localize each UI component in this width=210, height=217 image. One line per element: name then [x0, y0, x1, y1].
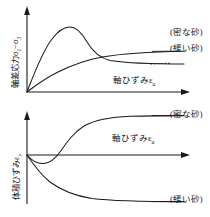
chart-volumetric-strain: 体積ひずみεv 軸ひずみεa (密な砂) (緩い砂) [0, 104, 210, 212]
axial-y-axis-label-mid: −σ [11, 40, 20, 49]
axial-x-axis-arrowhead [181, 89, 190, 95]
axial-y-axis-label: 軸差応力σ1−σ3 [12, 37, 22, 88]
axial-x-axis-sub: a [153, 81, 156, 87]
volumetric-x-axis-sub: a [152, 139, 155, 145]
chart-axial-stress-strain: 軸差応力σ1−σ3 軸ひずみεa (密な砂) (緩い砂) [0, 0, 210, 104]
volumetric-legend-dense-sand: (密な砂) [170, 110, 203, 119]
volumetric-y-axis-arrowhead [24, 111, 30, 120]
axial-y-axis-label-text: 軸差応力σ [11, 52, 20, 88]
axial-curve-dense-sand [27, 27, 184, 92]
volumetric-y-axis-label: 体積ひずみεv [13, 154, 23, 200]
axial-y-axis-sub-1: 1 [16, 49, 22, 52]
volumetric-x-axis-label-text: 軸ひずみε [112, 133, 152, 143]
axial-x-axis-label: 軸ひずみεa [113, 76, 155, 87]
volumetric-curve-loose-sand [27, 155, 184, 202]
axial-legend-dense-sand: (密な砂) [170, 28, 203, 37]
volumetric-x-axis-label: 軸ひずみεa [112, 134, 154, 145]
axial-curve-loose-sand [27, 51, 184, 92]
volumetric-y-axis-sub: v [17, 154, 23, 156]
axial-legend-loose-sand: (緩い砂) [170, 44, 203, 53]
axial-y-axis-arrowhead [24, 6, 30, 15]
volumetric-curve-dense-sand [27, 116, 184, 164]
volumetric-x-axis-arrowhead [181, 152, 190, 158]
axial-y-axis-sub-3: 3 [16, 37, 22, 40]
sand-triaxial-behaviour-figure: 軸差応力σ1−σ3 軸ひずみεa (密な砂) (緩い砂) 体積 [0, 0, 210, 217]
axial-x-axis-label-text: 軸ひずみε [113, 75, 153, 85]
volumetric-y-axis-label-text: 体積ひずみε [12, 157, 21, 200]
volumetric-legend-loose-sand: (緩い砂) [170, 195, 203, 204]
